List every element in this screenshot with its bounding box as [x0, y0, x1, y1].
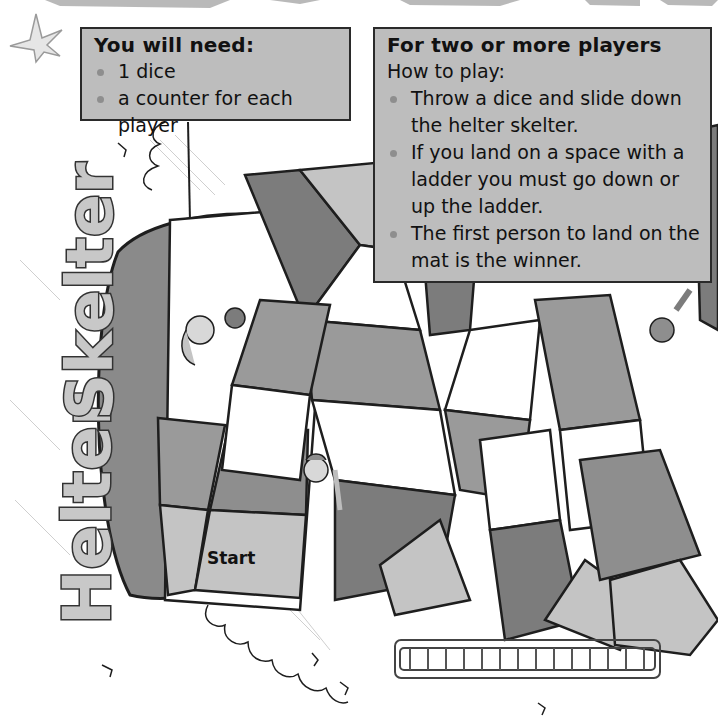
svg-text:Helter: Helter: [49, 393, 126, 625]
helter-skelter-title: Helter Skelter: [49, 144, 126, 625]
starfish-icon: [10, 14, 62, 62]
rules-panel: For two or more players How to play: Thr…: [373, 27, 712, 283]
bullet-icon: [390, 96, 397, 103]
rules-item: Throw a dice and slide down the helter s…: [387, 85, 700, 139]
bullet-icon: [390, 150, 397, 157]
child-sliding-3: [650, 290, 690, 342]
board-start-label: Start: [207, 548, 255, 568]
requirements-panel: You will need: 1 dice a counter for each…: [80, 27, 351, 121]
bullet-icon: [390, 231, 397, 238]
requirements-list: 1 dice a counter for each player: [94, 58, 339, 139]
requirements-item: a counter for each player: [94, 85, 339, 139]
requirements-item: 1 dice: [94, 58, 339, 85]
rules-item: The first person to land on the mat is t…: [387, 220, 700, 274]
bullet-icon: [97, 96, 104, 103]
rules-item: If you land on a space with a ladder you…: [387, 139, 700, 220]
top-edge-decoration: [45, 0, 718, 8]
rules-heading: For two or more players: [387, 33, 700, 58]
bullet-icon: [97, 69, 104, 76]
rules-list: Throw a dice and slide down the helter s…: [387, 85, 700, 274]
requirements-heading: You will need:: [94, 33, 339, 58]
rules-subheading: How to play:: [387, 58, 700, 85]
